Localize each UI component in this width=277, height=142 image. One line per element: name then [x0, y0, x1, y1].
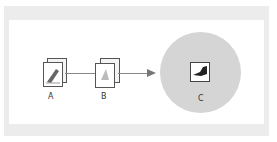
- connector-a-b: [65, 73, 95, 74]
- node-c-label: C: [198, 94, 204, 103]
- node-a-label: A: [48, 92, 53, 101]
- stacked-documents-icon: [95, 63, 115, 88]
- file-with-brush-icon: [43, 62, 63, 87]
- arrow-head-icon: [147, 69, 156, 77]
- node-b-label: B: [101, 92, 107, 101]
- connector-b-c: [118, 73, 148, 74]
- application-brush-icon: [190, 62, 210, 82]
